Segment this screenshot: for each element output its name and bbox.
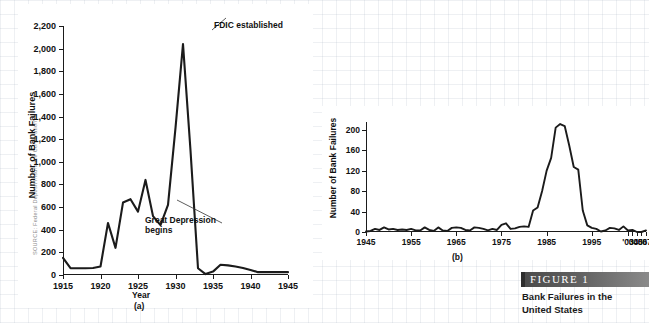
y-tick-mark: [362, 150, 366, 151]
annotation-fdic-established: FDIC established: [214, 21, 283, 31]
y-tick-mark: [59, 94, 63, 95]
panel-b-y-axis-line: [366, 122, 367, 232]
chart-panel-a: Number of Bank Failures Year (a) FDIC es…: [0, 0, 313, 323]
x-tick-label: 1940: [240, 281, 260, 291]
y-tick-label: 2,200: [33, 21, 56, 31]
y-tick-label: 600: [41, 202, 56, 212]
panel-b-letter: (b): [452, 252, 463, 262]
x-tick-mark: [592, 232, 593, 236]
x-tick-mark: [646, 232, 647, 236]
x-tick-mark: [456, 232, 457, 236]
panel-b-x-axis-line: [366, 231, 646, 232]
panel-a-y-axis-title: Number of Bank Failures: [27, 85, 37, 205]
annotation-great-depression: Great Depression begins: [145, 216, 247, 236]
y-tick-label: 400: [41, 225, 56, 235]
x-tick-label: 1955: [402, 237, 421, 247]
x-tick-label: 1935: [203, 281, 223, 291]
x-tick-mark: [411, 232, 412, 236]
panel-a-x-axis-title: Year: [132, 290, 150, 300]
x-tick-label: 1945: [357, 237, 376, 247]
x-tick-label: 1945: [278, 281, 298, 291]
x-tick-mark: [101, 275, 102, 279]
y-tick-mark: [59, 252, 63, 253]
y-tick-label: 800: [41, 179, 56, 189]
figure-title-bar: FIGURE 1: [521, 272, 649, 287]
panel-b-series-line: [366, 122, 646, 232]
x-tick-mark: [63, 275, 64, 279]
x-tick-label: 1985: [537, 237, 556, 247]
y-tick-mark: [362, 171, 366, 172]
y-tick-mark: [59, 71, 63, 72]
x-tick-mark: [366, 232, 367, 236]
y-tick-label: 1,200: [33, 134, 56, 144]
figure-caption-text: Bank Failures in the United States: [522, 291, 648, 317]
y-tick-label: 0: [51, 270, 56, 280]
y-tick-label: 1,600: [33, 89, 56, 99]
y-tick-label: 200: [346, 125, 360, 135]
y-tick-mark: [59, 139, 63, 140]
y-tick-label: 80: [351, 186, 360, 196]
chart-panel-b: Number of Bank Failures (b) 040801201602…: [322, 106, 649, 266]
x-tick-mark: [501, 232, 502, 236]
y-tick-mark: [59, 162, 63, 163]
y-tick-mark: [59, 184, 63, 185]
panel-a-plot-area: [63, 26, 288, 275]
x-tick-label: 1965: [447, 237, 466, 247]
y-tick-mark: [59, 26, 63, 27]
y-tick-label: 200: [41, 247, 56, 257]
y-tick-mark: [59, 230, 63, 231]
x-tick-label: 1920: [90, 281, 110, 291]
panel-a-annotation-leaders: [63, 26, 288, 275]
y-tick-label: 40: [351, 207, 360, 217]
figure-caption-line-2: United States: [522, 304, 648, 317]
x-tick-mark: [138, 275, 139, 279]
x-tick-label: 1925: [128, 281, 148, 291]
figure-number-label: FIGURE 1: [530, 273, 589, 285]
x-tick-mark: [632, 232, 633, 236]
y-tick-mark: [59, 207, 63, 208]
x-tick-mark: [213, 275, 214, 279]
x-tick-label: 1930: [165, 281, 185, 291]
figure-caption-block: FIGURE 1 Bank Failures in the United Sta…: [521, 272, 649, 323]
x-tick-mark: [637, 232, 638, 236]
panel-b-plot-area: [366, 122, 646, 232]
y-tick-mark: [362, 130, 366, 131]
y-tick-mark: [362, 212, 366, 213]
panel-b-y-axis-title: Number of Bank Failures: [328, 113, 338, 223]
figure-page: SOURCE: Federal Deposit Insurance Corpor…: [0, 0, 649, 323]
y-tick-mark: [59, 49, 63, 50]
x-tick-mark: [547, 232, 548, 236]
y-tick-mark: [59, 117, 63, 118]
x-tick-mark: [628, 232, 629, 236]
x-tick-label: 1995: [582, 237, 601, 247]
y-tick-label: 2,000: [33, 44, 56, 54]
panel-a-letter: (a): [134, 301, 144, 311]
x-tick-mark: [251, 275, 252, 279]
y-tick-label: 160: [346, 145, 360, 155]
y-tick-label: 1,000: [33, 157, 56, 167]
figure-bar-accent: [521, 272, 525, 287]
x-tick-label: '07: [640, 237, 649, 247]
x-tick-mark: [641, 232, 642, 236]
figure-caption-line-1: Bank Failures in the: [522, 291, 648, 304]
y-tick-mark: [362, 191, 366, 192]
y-tick-label: 1,800: [33, 66, 56, 76]
x-tick-label: 1975: [492, 237, 511, 247]
y-tick-label: 0: [355, 227, 360, 237]
y-tick-label: 120: [346, 166, 360, 176]
x-tick-mark: [176, 275, 177, 279]
x-tick-label: 1915: [53, 281, 73, 291]
x-tick-mark: [288, 275, 289, 279]
y-tick-label: 1,400: [33, 112, 56, 122]
